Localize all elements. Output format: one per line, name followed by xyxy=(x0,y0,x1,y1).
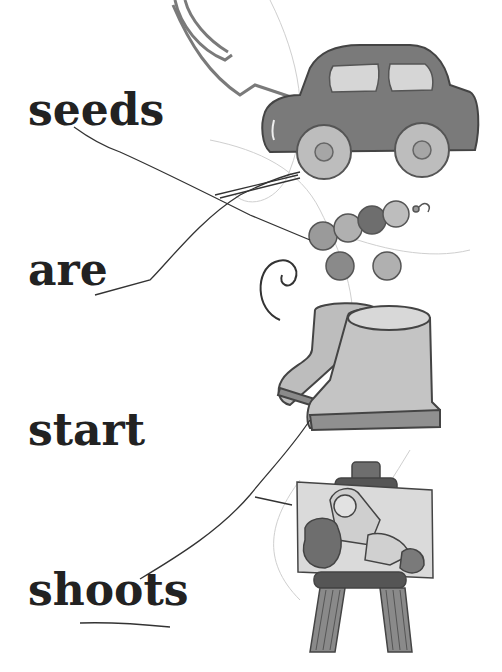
word-are: are xyxy=(28,248,108,292)
word-shoots: shoots xyxy=(28,568,189,612)
word-seeds: seeds xyxy=(28,88,164,132)
hand-drawn-matching-lines xyxy=(74,127,310,627)
beads-picture xyxy=(261,201,430,320)
pencil-outline-shape xyxy=(173,0,300,100)
easel-picture xyxy=(297,462,433,652)
word-start: start xyxy=(28,408,145,452)
boots-picture xyxy=(278,303,440,430)
